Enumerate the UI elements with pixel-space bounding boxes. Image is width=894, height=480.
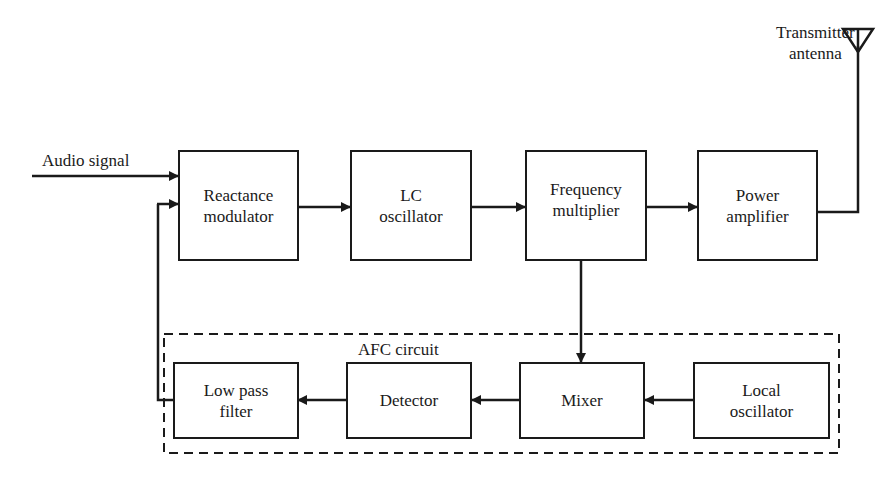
block-label: Reactance modulator: [204, 185, 274, 227]
afc-group-label: AFC circuit: [356, 340, 441, 360]
block-label: Local oscillator: [730, 380, 793, 422]
block-label: Detector: [380, 390, 439, 411]
block-power-amplifier: Power amplifier: [697, 150, 818, 261]
block-label: Frequency multiplier: [550, 179, 622, 221]
block-frequency-multiplier: Frequency multiplier: [525, 150, 647, 261]
antenna-label: Transmitter antenna: [776, 22, 855, 64]
block-low-pass-filter: Low pass filter: [173, 362, 299, 439]
amplifier-to-antenna-line: [817, 46, 858, 212]
block-lc-oscillator: LC oscillator: [350, 150, 472, 261]
block-mixer: Mixer: [519, 362, 645, 439]
block-detector: Detector: [346, 362, 472, 439]
block-label: Mixer: [561, 390, 603, 411]
block-local-oscillator: Local oscillator: [693, 362, 830, 439]
block-label: Power amplifier: [726, 185, 788, 227]
feedback-line: [158, 204, 173, 400]
block-label: LC oscillator: [379, 185, 442, 227]
block-reactance-modulator: Reactance modulator: [178, 150, 299, 261]
audio-signal-label: Audio signal: [42, 150, 129, 171]
block-label: Low pass filter: [204, 380, 269, 422]
